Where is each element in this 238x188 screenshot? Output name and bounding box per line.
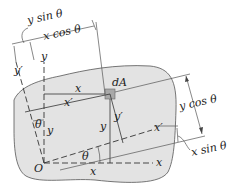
y-coord-label-left: y (46, 124, 54, 137)
ycos-arrow-top (185, 76, 189, 82)
x-coord-label-bottom: x (90, 165, 97, 178)
y-coord-label: y (99, 120, 107, 133)
xsin-dimension-line (177, 128, 178, 142)
xcos-right-tick (92, 20, 96, 30)
y-sin-theta-label: y sin θ (25, 7, 64, 28)
ysin-right-tick (30, 42, 34, 60)
theta-label-left: θ (35, 118, 42, 131)
y-axis-label: y (40, 50, 48, 63)
x-coord-label: x (75, 82, 82, 95)
y-cos-theta-label: y cos θ (177, 92, 218, 113)
x-sin-theta-label: x sin θ (190, 139, 228, 159)
y-prime-axis-label: y′ (13, 64, 23, 77)
origin-label: O (34, 162, 43, 175)
dA-label: dA (112, 76, 127, 89)
x-prime-coord-label: x′ (64, 96, 73, 109)
ysin-left-tick (14, 46, 16, 62)
ycos-arrow-bottom (199, 127, 203, 134)
theta-label-bottom: θ (82, 150, 89, 163)
x-cos-theta-label: x cos θ (42, 22, 82, 43)
rotated-axes-diagram: O x x y y x′ y′ dA x x′ y y′ θ θ y sin θ… (0, 0, 238, 188)
x-prime-axis-label: x′ (154, 121, 163, 134)
xsin-leader (178, 136, 190, 150)
x-axis-label: x (156, 156, 163, 169)
y-prime-coord-label: y′ (113, 110, 123, 123)
